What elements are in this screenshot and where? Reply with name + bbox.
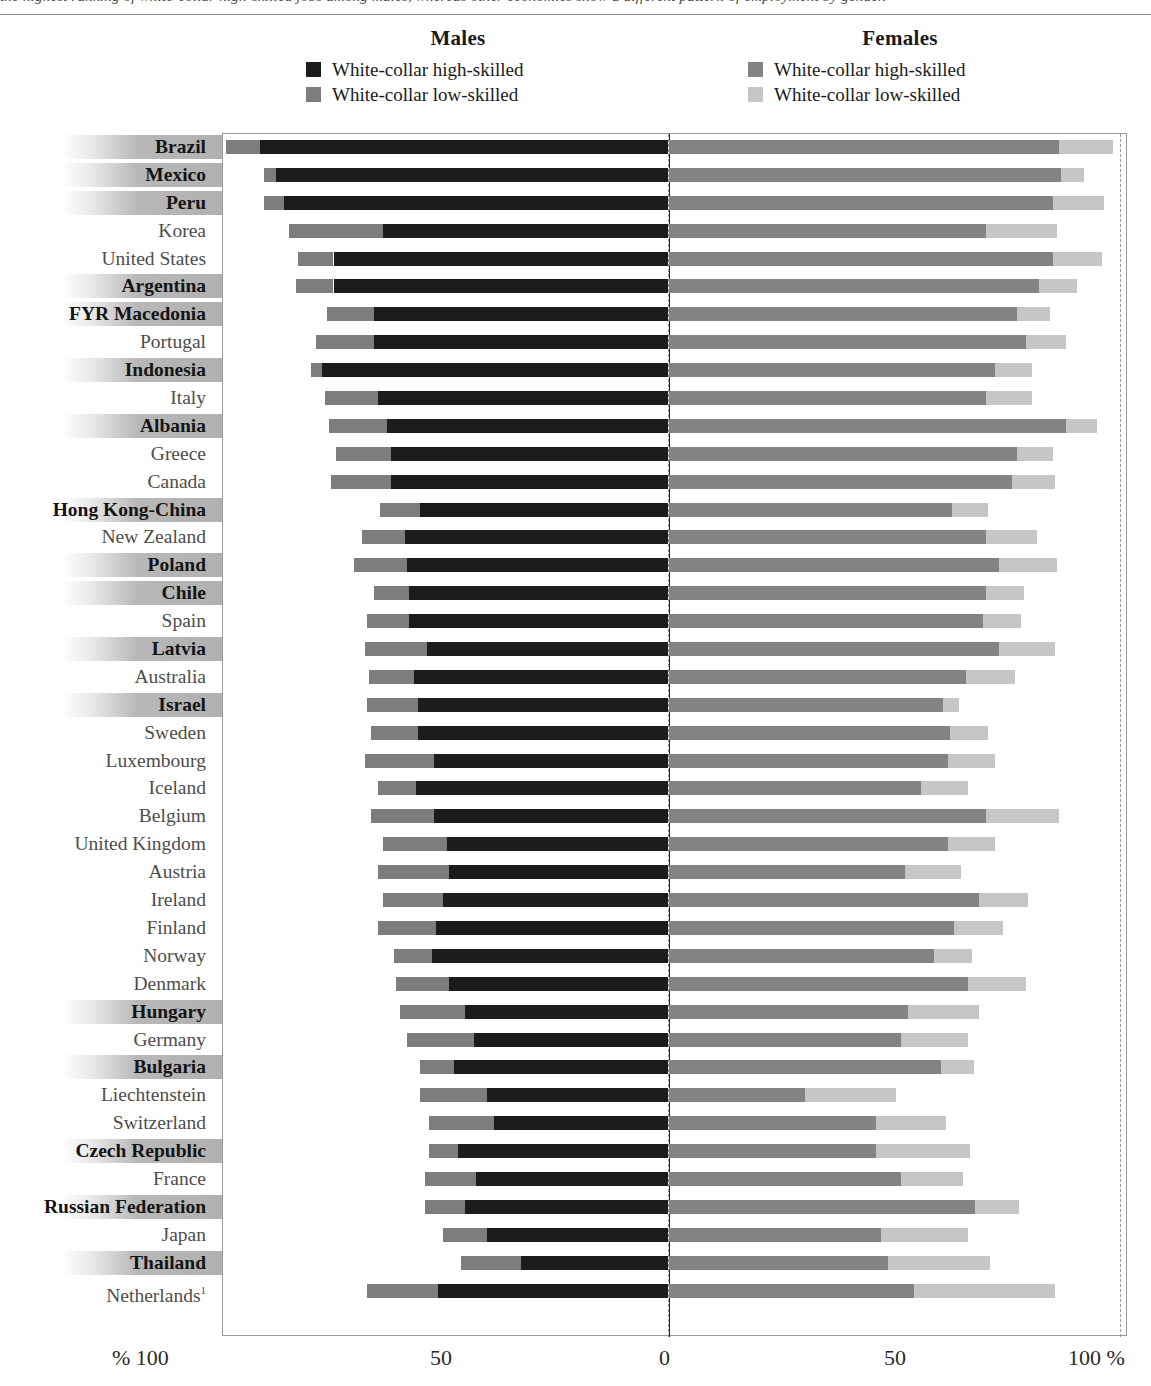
bar-female-low-skilled: [999, 558, 1057, 572]
bar-female-high-skilled: [669, 614, 983, 628]
bar-male-low-skilled: [369, 670, 414, 684]
row-bars: [222, 523, 1127, 551]
country-label-portugal: Portugal: [0, 328, 214, 356]
country-label-denmark: Denmark: [0, 970, 214, 998]
bar-male-low-skilled: [367, 614, 409, 628]
chart-plot-area: BrazilMexicoPeruKoreaUnited StatesArgent…: [0, 133, 1151, 1386]
bar-male-low-skilled: [362, 530, 404, 544]
bar-male-high-skilled: [474, 1033, 668, 1047]
country-label-norway: Norway: [0, 942, 214, 970]
country-label-albania: Albania: [0, 412, 214, 440]
chart-row: Portugal: [0, 328, 1151, 356]
country-label-finland: Finland: [0, 914, 214, 942]
country-label-chile: Chile: [0, 579, 214, 607]
bar-male-low-skilled: [367, 1284, 438, 1298]
bar-male-high-skilled: [334, 252, 669, 266]
chart-row: United States: [0, 245, 1151, 273]
row-bars: [222, 1081, 1127, 1109]
row-bars: [222, 802, 1127, 830]
bar-male-high-skilled: [418, 726, 668, 740]
chart-row: Albania: [0, 412, 1151, 440]
country-label-united-states: United States: [0, 245, 214, 273]
bar-female-low-skilled: [986, 809, 1060, 823]
bar-female-high-skilled: [669, 754, 948, 768]
country-label-indonesia: Indonesia: [0, 356, 214, 384]
bar-male-low-skilled: [378, 865, 449, 879]
country-label-mexico: Mexico: [0, 161, 214, 189]
row-bars: [222, 468, 1127, 496]
legend-group-males: Males White-collar high-skilled White-co…: [248, 26, 668, 109]
footnote-marker: 1: [201, 1284, 207, 1296]
bar-male-low-skilled: [383, 837, 448, 851]
x-tick-zero: 0: [659, 1345, 670, 1371]
bar-female-high-skilled: [669, 1228, 881, 1242]
bar-male-high-skilled: [418, 698, 668, 712]
row-bars: [222, 886, 1127, 914]
bar-female-high-skilled: [669, 642, 999, 656]
bar-female-low-skilled: [908, 1005, 979, 1019]
bar-female-high-skilled: [669, 1200, 975, 1214]
bar-female-high-skilled: [669, 949, 934, 963]
bar-male-low-skilled: [298, 252, 334, 266]
x-tick-right-100: 100 %: [1068, 1345, 1125, 1371]
row-bars: [222, 245, 1127, 273]
x-tick-left-100: % 100: [112, 1345, 169, 1371]
chart-row: Greece: [0, 440, 1151, 468]
chart-row: Spain: [0, 607, 1151, 635]
bar-female-high-skilled: [669, 1033, 901, 1047]
bar-male-low-skilled: [420, 1060, 453, 1074]
row-bars: [222, 551, 1127, 579]
row-bars: [222, 774, 1127, 802]
chart-row: Russian Federation: [0, 1193, 1151, 1221]
bar-female-low-skilled: [986, 224, 1057, 238]
chart-row: Japan: [0, 1221, 1151, 1249]
bar-female-high-skilled: [669, 1256, 888, 1270]
bar-female-low-skilled: [979, 893, 1028, 907]
country-label-peru: Peru: [0, 189, 214, 217]
bar-male-low-skilled: [327, 307, 374, 321]
bar-male-low-skilled: [365, 642, 427, 656]
bar-male-high-skilled: [487, 1088, 668, 1102]
chart-row: Canada: [0, 468, 1151, 496]
bar-female-low-skilled: [1039, 279, 1077, 293]
row-bars: [222, 272, 1127, 300]
bar-female-low-skilled: [966, 670, 1015, 684]
bar-male-high-skilled: [374, 335, 668, 349]
bar-female-low-skilled: [914, 1284, 1054, 1298]
row-bars: [222, 1221, 1127, 1249]
bar-male-low-skilled: [443, 1228, 488, 1242]
chart-row: Poland: [0, 551, 1151, 579]
chart-row: Latvia: [0, 635, 1151, 663]
bar-male-low-skilled: [429, 1144, 458, 1158]
chart-row: FYR Macedonia: [0, 300, 1151, 328]
bar-male-high-skilled: [387, 419, 668, 433]
legend-item-females-low-skilled: White-collar low-skilled: [690, 84, 1110, 106]
bar-female-low-skilled: [952, 503, 988, 517]
bar-female-low-skilled: [995, 363, 1033, 377]
bar-female-low-skilled: [934, 949, 972, 963]
bar-male-low-skilled: [311, 363, 322, 377]
row-bars: [222, 607, 1127, 635]
country-label-italy: Italy: [0, 384, 214, 412]
chart-row: Indonesia: [0, 356, 1151, 384]
country-label-iceland: Iceland: [0, 774, 214, 802]
bar-female-high-skilled: [669, 391, 986, 405]
bar-female-high-skilled: [669, 252, 1053, 266]
bar-male-low-skilled: [461, 1256, 521, 1270]
bar-female-high-skilled: [669, 670, 966, 684]
country-label-fyr-macedonia: FYR Macedonia: [0, 300, 214, 328]
chart-row: Liechtenstein: [0, 1081, 1151, 1109]
bar-female-high-skilled: [669, 363, 995, 377]
chart-row: Brazil: [0, 133, 1151, 161]
country-label-brazil: Brazil: [0, 133, 214, 161]
country-label-ireland: Ireland: [0, 886, 214, 914]
bar-male-high-skilled: [391, 447, 668, 461]
row-bars: [222, 496, 1127, 524]
legend-item-females-high-skilled: White-collar high-skilled: [690, 59, 1110, 81]
country-label-hungary: Hungary: [0, 998, 214, 1026]
bar-male-low-skilled: [226, 140, 259, 154]
country-label-sweden: Sweden: [0, 719, 214, 747]
bar-female-low-skilled: [1059, 140, 1113, 154]
bar-female-high-skilled: [669, 530, 986, 544]
chart-row: Korea: [0, 217, 1151, 245]
